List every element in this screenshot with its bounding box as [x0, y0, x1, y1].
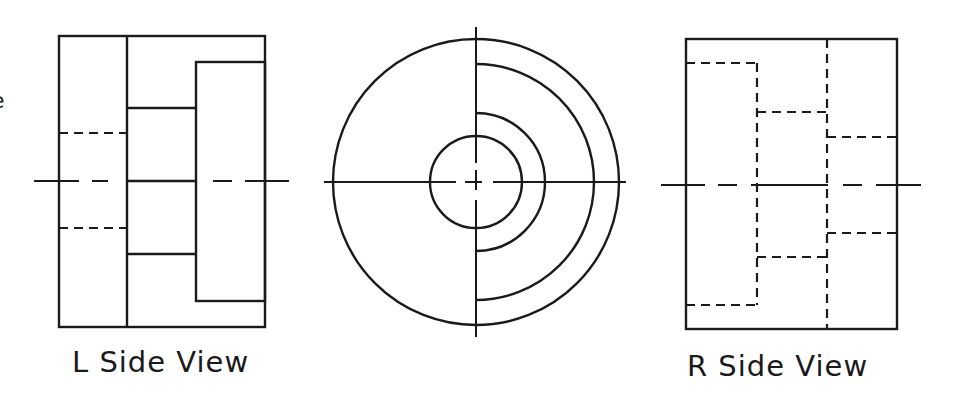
left-side-view-label: L Side View [72, 348, 249, 377]
right-side-view-label: R Side View [687, 352, 868, 381]
left-side-view-geometry [34, 36, 289, 327]
front-view-geometry [324, 27, 626, 337]
clipped-edge-text-fragment: e [0, 90, 5, 112]
right-side-view-geometry [661, 39, 921, 329]
